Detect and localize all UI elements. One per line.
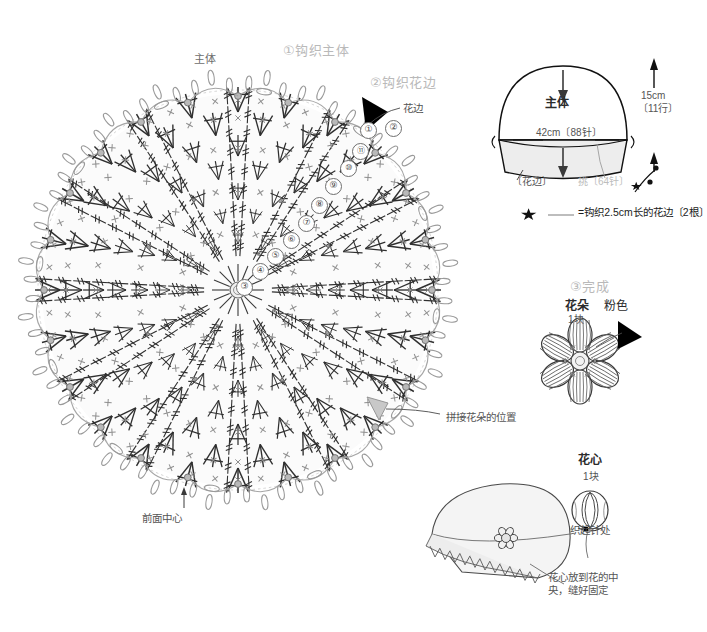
flower-color-label: 粉色 xyxy=(604,298,628,314)
round-number-5: ⑤ xyxy=(267,248,284,265)
finish-note-line2: 央，缝好固定 xyxy=(548,583,608,597)
round-number-10: ⑩ xyxy=(340,160,357,177)
round-number-7: ⑦ xyxy=(298,215,315,232)
schematic-rows-label: 〔11行〕 xyxy=(638,102,678,116)
legend-text: =钩织2.5cm长的花边〔2根〕 xyxy=(578,205,707,219)
round-number-4: ④ xyxy=(252,263,269,280)
front-center-label: 前面中心 xyxy=(142,511,182,525)
flower-center-name-label: 花心 xyxy=(578,452,602,468)
flower-motif xyxy=(518,315,648,430)
round-number-2: ② xyxy=(385,120,402,137)
round-number-9: ⑨ xyxy=(325,178,342,195)
round-number-1: ① xyxy=(360,122,377,139)
step-3-label: ③完成 xyxy=(570,278,609,296)
flower-placement-marker xyxy=(367,397,440,420)
lace-label: 花边 xyxy=(403,101,423,115)
round-number-3: ③ xyxy=(236,279,253,296)
schematic-height-label: 15cm xyxy=(641,89,665,103)
schematic-body-label: 主体 xyxy=(545,95,569,111)
round-number-6: ⑥ xyxy=(283,232,300,249)
schematic-pickup-label: 挑〔64针〕 xyxy=(578,175,629,189)
schematic-width-label: 42cm〔88针〕 xyxy=(536,126,602,140)
flower-center-ring xyxy=(571,352,589,370)
step-2-label: ②钩织花边 xyxy=(370,74,436,92)
round-number-11: ⑪ xyxy=(352,143,369,160)
flower-name-label: 花朵 xyxy=(565,298,589,314)
flower-position-label: 拼接花朵的位置 xyxy=(446,410,516,424)
step-1-label: ①钩织主体 xyxy=(283,42,349,60)
front-center-leader xyxy=(181,487,187,508)
main-body-label: 主体 xyxy=(194,52,216,67)
schematic-lace-label: 〔花边〕 xyxy=(512,175,552,189)
